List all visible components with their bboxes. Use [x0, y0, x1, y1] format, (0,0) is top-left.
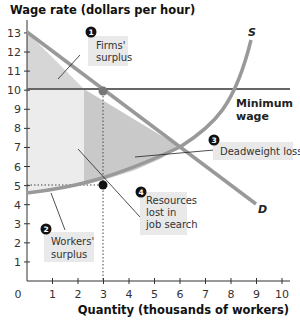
leader-2 [51, 193, 65, 230]
x-tick-label: 9 [253, 288, 260, 301]
annotation-3-text: Deadweight loss [220, 146, 300, 157]
y-tick-label: 5 [14, 180, 21, 193]
point-min-wage-demand [99, 87, 108, 96]
annotation-4-line3: job search [145, 219, 198, 230]
y-tick-label: 11 [7, 65, 21, 78]
y-tick-label: 2 [14, 237, 21, 250]
y-axis-title: Wage rate (dollars per hour) [10, 3, 195, 17]
annotation-2-line2: surplus [51, 249, 87, 260]
chart-svg: 12345678910111213 012345678910 S D Minim… [0, 0, 300, 324]
workers-surplus-area [27, 89, 84, 193]
y-tick-label: 6 [14, 161, 21, 174]
x-tick-label: 4 [126, 288, 133, 301]
y-tick-label: 1 [14, 256, 21, 269]
point-supply-3 [99, 181, 108, 190]
min-wage-label-2: wage [236, 110, 269, 123]
x-tick-label: 5 [151, 288, 158, 301]
y-tick-label: 12 [7, 46, 21, 59]
x-axis-title: Quantity (thousands of workers) [78, 303, 289, 317]
x-tick-label: 0 [15, 288, 22, 301]
y-tick-label: 7 [14, 141, 21, 154]
y-tick-label: 10 [7, 84, 21, 97]
badge-2-num: 2 [43, 225, 48, 234]
y-tick-label: 8 [14, 122, 21, 135]
y-tick-label: 4 [14, 199, 21, 212]
y-tick-label: 3 [14, 218, 21, 231]
x-tick-label: 10 [275, 288, 289, 301]
demand-label: D [258, 203, 267, 216]
x-tick-label: 7 [202, 288, 209, 301]
annotation-4-line2: lost in [146, 207, 176, 218]
annotation-1-line1: Firms' [96, 40, 125, 51]
y-tick-label: 9 [14, 103, 21, 116]
annotation-4-line1: Resources [146, 195, 197, 206]
x-tick-label: 2 [75, 288, 82, 301]
x-tick-label: 1 [49, 288, 56, 301]
x-tick-label: 3 [100, 288, 107, 301]
min-wage-label-1: Minimum [236, 97, 293, 110]
y-tick-label: 13 [7, 27, 21, 40]
badge-3-num: 3 [211, 136, 216, 145]
supply-label: S [248, 26, 256, 39]
x-tick-label: 6 [177, 288, 184, 301]
minimum-wage-chart: 12345678910111213 012345678910 S D Minim… [0, 0, 300, 324]
x-tick-label: 8 [228, 288, 235, 301]
annotation-1-line2: surplus [96, 52, 132, 63]
annotation-2-line1: Workers' [51, 236, 94, 247]
badge-1-num: 1 [88, 28, 93, 37]
badge-4-num: 4 [138, 188, 143, 197]
